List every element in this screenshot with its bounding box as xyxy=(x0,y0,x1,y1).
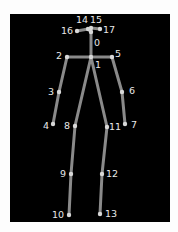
joint-label-3: 3 xyxy=(48,87,54,97)
joint-3 xyxy=(57,90,61,94)
joint-2 xyxy=(65,55,69,59)
joint-label-15: 15 xyxy=(90,15,102,25)
joint-label-0: 0 xyxy=(94,38,100,48)
joint-label-7: 7 xyxy=(131,120,137,130)
joint-label-14: 14 xyxy=(76,15,88,25)
joint-label-16: 16 xyxy=(61,26,73,36)
joint-label-8: 8 xyxy=(64,121,70,131)
joint-label-4: 4 xyxy=(43,121,49,131)
joint-9 xyxy=(69,172,73,176)
joint-12 xyxy=(100,172,104,176)
joint-label-17: 17 xyxy=(103,25,115,35)
joint-label-11: 11 xyxy=(109,122,121,132)
bone-12-13 xyxy=(100,174,102,214)
joint-13 xyxy=(98,212,102,216)
bone-9-10 xyxy=(69,174,71,215)
joint-label-5: 5 xyxy=(115,49,121,59)
joint-10 xyxy=(67,213,71,217)
joint-4 xyxy=(51,122,55,126)
joint-label-9: 9 xyxy=(60,169,66,179)
joint-15 xyxy=(89,26,93,30)
bone-5-6 xyxy=(112,57,122,92)
joint-17 xyxy=(98,27,102,31)
bone-1-8 xyxy=(75,57,91,126)
joint-label-12: 12 xyxy=(106,169,118,179)
joint-6 xyxy=(120,90,124,94)
bone-6-7 xyxy=(122,92,125,124)
joint-16 xyxy=(75,29,79,33)
bone-2-3 xyxy=(59,57,67,92)
pose-skeleton xyxy=(0,0,178,232)
joint-label-2: 2 xyxy=(56,51,62,61)
joint-label-10: 10 xyxy=(52,210,64,220)
joint-label-1: 1 xyxy=(95,60,101,70)
bone-11-12 xyxy=(102,127,107,174)
joint-5 xyxy=(110,55,114,59)
joint-8 xyxy=(73,124,77,128)
joint-7 xyxy=(123,122,127,126)
bone-8-9 xyxy=(71,126,75,174)
joint-label-13: 13 xyxy=(105,209,117,219)
joint-1 xyxy=(89,55,93,59)
joint-label-6: 6 xyxy=(129,86,135,96)
